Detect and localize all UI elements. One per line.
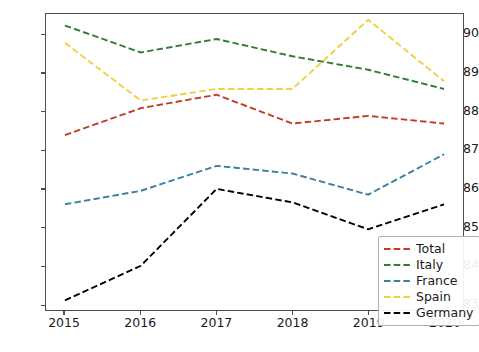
chart-legend: TotalItalyFranceSpainGermany [378, 236, 479, 326]
legend-item-label: Italy [416, 259, 443, 272]
legend-line-swatch-icon [384, 292, 410, 302]
x-axis-tick-label: 2017 [201, 317, 233, 330]
legend-item-label: France [416, 275, 458, 288]
legend-line-swatch-icon [384, 276, 410, 286]
line-series-total [65, 95, 444, 135]
legend-item-spain[interactable]: Spain [384, 289, 473, 305]
x-axis-tick-label: 2015 [48, 317, 80, 330]
x-axis-tick-label: 2018 [277, 317, 309, 330]
legend-item-italy[interactable]: Italy [384, 257, 473, 273]
legend-item-france[interactable]: France [384, 273, 473, 289]
chart-figure: 0.830.840.850.860.870.880.890.90 2015201… [0, 0, 479, 352]
legend-item-germany[interactable]: Germany [384, 305, 473, 321]
legend-item-label: Spain [416, 291, 451, 304]
legend-line-swatch-icon [384, 260, 410, 270]
legend-item-label: Total [416, 243, 445, 256]
x-axis-tick-label: 2016 [124, 317, 156, 330]
line-series-italy [65, 26, 444, 89]
line-series-france [65, 154, 444, 204]
legend-line-swatch-icon [384, 308, 410, 318]
legend-line-swatch-icon [384, 244, 410, 254]
line-series-spain [65, 20, 444, 101]
legend-item-label: Germany [416, 307, 473, 320]
legend-item-total[interactable]: Total [384, 241, 473, 257]
